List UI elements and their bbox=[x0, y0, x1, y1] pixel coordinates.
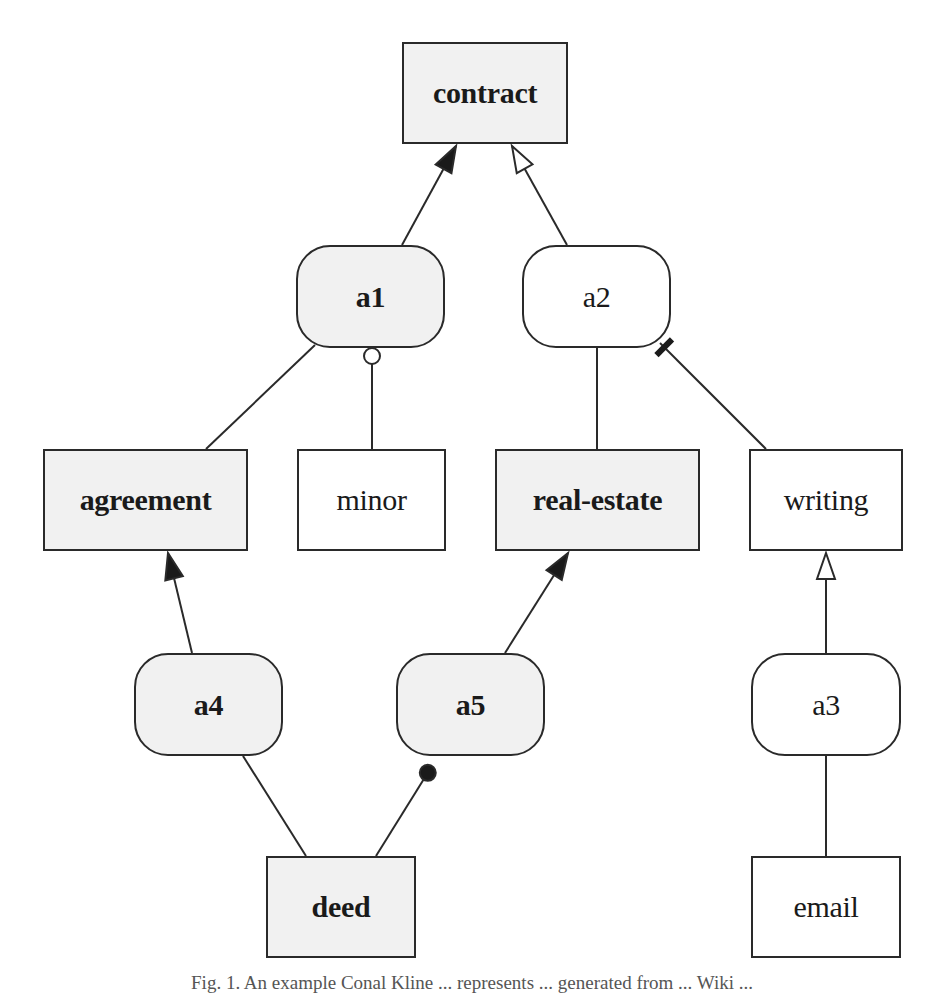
node-label: contract bbox=[433, 76, 537, 110]
node-deed: deed bbox=[266, 856, 416, 958]
node-label: real-estate bbox=[533, 483, 662, 517]
edge-line bbox=[660, 343, 766, 449]
edge-agreement-to-a1 bbox=[206, 345, 315, 449]
node-writing: writing bbox=[749, 449, 903, 551]
node-label: agreement bbox=[80, 483, 212, 517]
node-real-estate: real-estate bbox=[495, 449, 700, 551]
edge-a1-to-contract bbox=[402, 146, 456, 245]
edge-deed-to-a4 bbox=[243, 756, 306, 856]
edge-writing-to-a2 bbox=[656, 339, 766, 449]
filled-circle-icon bbox=[420, 765, 436, 781]
node-label: email bbox=[793, 890, 858, 924]
node-agreement: agreement bbox=[43, 449, 248, 551]
hollow-circle-icon bbox=[364, 348, 380, 364]
edge-a4-to-agreement bbox=[165, 553, 192, 653]
node-a3: a3 bbox=[751, 653, 901, 756]
edge-a3-to-writing bbox=[817, 553, 835, 653]
node-email: email bbox=[751, 856, 901, 958]
node-contract: contract bbox=[402, 42, 568, 144]
node-label: a5 bbox=[456, 688, 485, 722]
edge-a2-to-contract bbox=[512, 146, 567, 245]
node-minor: minor bbox=[297, 449, 446, 551]
node-a1: a1 bbox=[296, 245, 445, 348]
filled-arrowhead-icon bbox=[165, 553, 183, 580]
node-label: a1 bbox=[356, 280, 385, 314]
edge-a5-to-real-estate bbox=[505, 553, 568, 653]
node-label: minor bbox=[336, 483, 406, 517]
filled-arrowhead-icon bbox=[547, 553, 568, 580]
node-label: writing bbox=[784, 483, 869, 517]
node-label: a4 bbox=[194, 688, 223, 722]
filled-arrowhead-icon bbox=[436, 146, 456, 173]
node-a2: a2 bbox=[522, 245, 671, 348]
node-label: a2 bbox=[583, 280, 611, 314]
node-label: a3 bbox=[812, 688, 840, 722]
edge-line bbox=[243, 756, 306, 856]
edge-deed-to-a5 bbox=[376, 765, 436, 856]
node-label: deed bbox=[312, 890, 371, 924]
node-a5: a5 bbox=[396, 653, 545, 756]
figure-caption: Fig. 1. An example Conal Kline ... repre… bbox=[0, 972, 944, 994]
hollow-arrowhead-icon bbox=[817, 553, 835, 579]
edge-line bbox=[206, 345, 315, 449]
node-a4: a4 bbox=[134, 653, 283, 756]
edge-minor-to-a1 bbox=[364, 348, 380, 449]
hollow-arrowhead-icon bbox=[512, 146, 532, 173]
